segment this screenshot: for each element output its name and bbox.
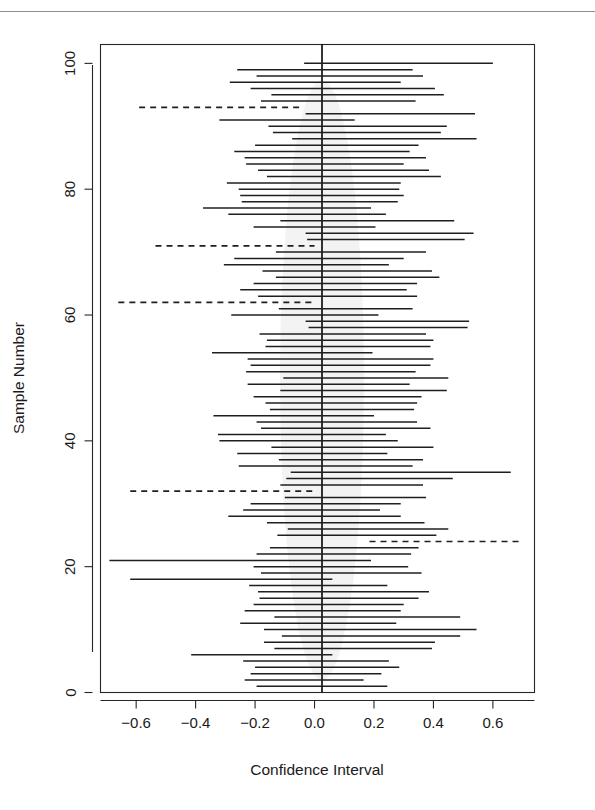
x-tick-label: −0.4 [181, 714, 211, 731]
x-tick-label: −0.6 [121, 714, 151, 731]
x-tick-label: 0.4 [423, 714, 444, 731]
confidence-interval-plot: −0.6−0.4−0.20.00.20.40.6 Confidence Inte… [0, 0, 595, 810]
x-tick-label: 0.0 [304, 714, 325, 731]
y-tick-label: 20 [62, 558, 79, 575]
figure-page: −0.6−0.4−0.20.00.20.40.6 Confidence Inte… [0, 0, 595, 810]
y-tick-label: 80 [62, 181, 79, 198]
y-axis: 020406080100 Sample Number [10, 51, 93, 697]
x-tick-label: 0.2 [364, 714, 385, 731]
y-axis-ticks: 020406080100 [62, 51, 93, 697]
y-tick-label: 0 [62, 688, 79, 696]
x-axis-title: Confidence Interval [250, 761, 384, 778]
y-tick-label: 40 [62, 433, 79, 450]
x-tick-label: 0.6 [482, 714, 503, 731]
x-axis: −0.6−0.4−0.20.00.20.40.6 Confidence Inte… [101, 701, 535, 779]
y-axis-title: Sample Number [10, 322, 27, 434]
x-axis-ticks: −0.6−0.4−0.20.00.20.40.6 [121, 701, 503, 732]
x-tick-label: −0.2 [240, 714, 270, 731]
y-tick-label: 60 [62, 307, 79, 324]
y-tick-label: 100 [62, 51, 79, 76]
